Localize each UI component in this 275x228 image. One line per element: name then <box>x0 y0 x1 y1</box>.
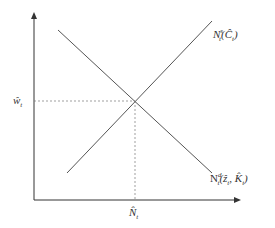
y-axis-arrow-icon <box>31 12 37 19</box>
supply-label-args: (Ĉ <box>221 28 232 40</box>
equilibrium-wage-label: ŵt <box>13 95 22 109</box>
demand-curve-label: Ndt(ẑt, K̂t) <box>210 172 248 187</box>
demand-label-mid: , K̂ <box>229 172 242 184</box>
supply-curve <box>67 21 212 173</box>
supply-label-close: ) <box>234 28 238 40</box>
wage-label-sub: t <box>20 101 22 109</box>
x-axis-arrow-icon <box>234 197 241 203</box>
supply-curve-label: Nst(Ĉt) <box>213 28 238 43</box>
equilibrium-quantity-label: N̂t <box>129 207 138 221</box>
demand-label-close: ) <box>244 172 248 184</box>
quantity-label-sub: t <box>136 213 138 221</box>
